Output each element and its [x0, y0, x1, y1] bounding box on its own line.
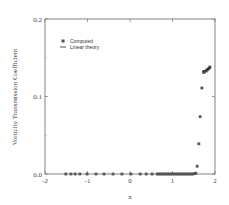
computed-point: [121, 173, 124, 176]
y-tick-label: 0.1: [33, 93, 42, 101]
axis-ticks: -2-10120.00.10.2: [33, 16, 217, 186]
y-tick-label: 0.0: [33, 171, 42, 179]
computed-point: [196, 165, 199, 168]
computed-point: [145, 173, 148, 176]
computed-point: [86, 173, 89, 176]
computed-point: [197, 142, 200, 145]
computed-point: [199, 115, 202, 118]
y-axis-title: Vorticity Transmission Coefficient: [11, 49, 19, 146]
computed-point: [95, 173, 98, 176]
legend-computed-marker-icon: [62, 40, 65, 43]
computed-point: [112, 173, 115, 176]
x-tick-label: 1: [171, 177, 175, 185]
computed-point: [74, 173, 77, 176]
computed-point: [129, 173, 132, 176]
y-tick-label: 0.2: [33, 16, 42, 24]
computed-point: [139, 173, 142, 176]
chart: -2-10120.00.10.2 Computed Linear theory …: [0, 0, 229, 205]
computed-point: [200, 87, 203, 90]
x-tick-label: -1: [85, 177, 91, 185]
x-axis-title: x: [128, 193, 132, 201]
legend: Computed Linear theory: [60, 38, 100, 50]
data-series: [64, 66, 211, 176]
computed-point: [194, 172, 197, 175]
x-tick-label: 0: [128, 177, 132, 185]
x-tick-label: 2: [213, 177, 217, 185]
computed-point: [103, 173, 106, 176]
computed-point: [78, 173, 81, 176]
computed-point: [64, 173, 67, 176]
legend-linear-theory-label: Linear theory: [70, 44, 100, 50]
computed-point: [151, 173, 154, 176]
x-tick-label: -2: [42, 177, 48, 185]
computed-point: [70, 173, 73, 176]
